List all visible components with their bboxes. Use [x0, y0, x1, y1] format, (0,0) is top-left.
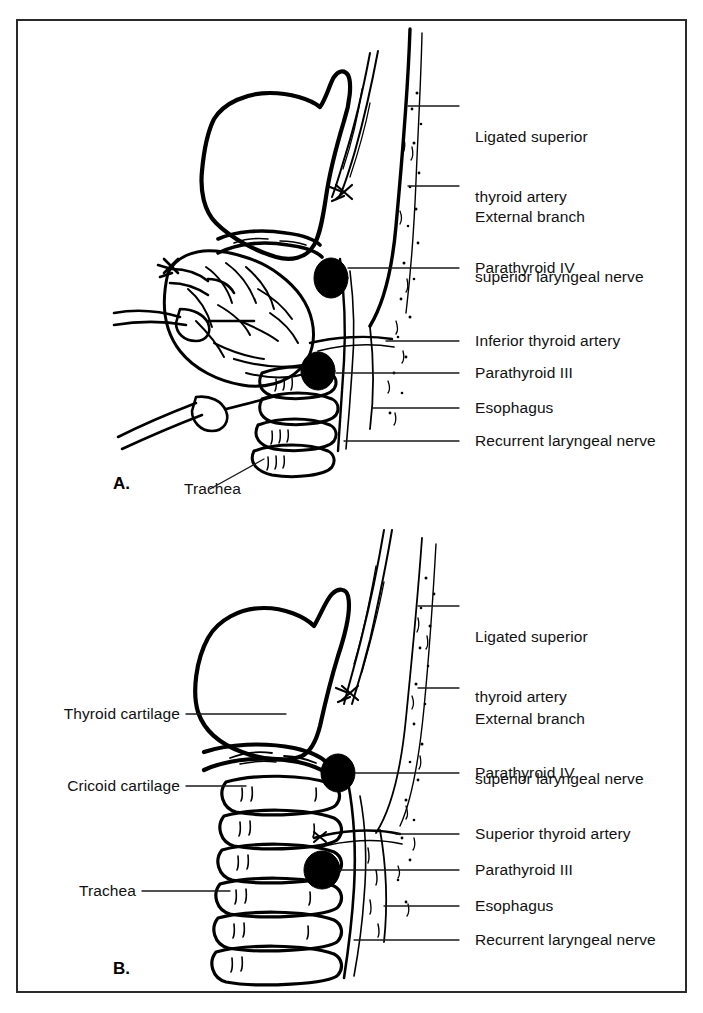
- parathyroid-iv-marker: [321, 754, 355, 792]
- retractor-lower: [118, 397, 272, 449]
- parathyroid-iv-marker: [314, 258, 348, 298]
- recurrent-laryngeal-nerve-line: [344, 782, 355, 978]
- cricoid-detail-2: [284, 756, 316, 763]
- label-line: External branch: [475, 207, 644, 227]
- fascia-line: [406, 33, 422, 313]
- label-cricoid-cartilage: Cricoid cartilage: [45, 776, 180, 796]
- thyroid-cartilage-outline: [202, 71, 351, 258]
- fascia-line: [400, 544, 436, 826]
- trachea-texture-ticks: [267, 378, 292, 470]
- superior-thyroid-vessel-b: [352, 530, 392, 704]
- label-recurrent-laryngeal-nerve: Recurrent laryngeal nerve: [475, 431, 656, 451]
- ligature-knot-icon: [330, 185, 352, 201]
- recurrent-laryngeal-nerve-line: [338, 259, 345, 451]
- panel-letter-a: A.: [113, 474, 130, 494]
- label-parathyroid-iv: Parathyroid IV: [475, 763, 575, 783]
- label-parathyroid-iv: Parathyroid IV: [475, 258, 575, 278]
- superior-laryngeal-nerve-branch: [350, 103, 370, 177]
- parathyroid-iii-marker: [301, 352, 335, 390]
- figure-frame: Ligated superior thyroid artery External…: [16, 19, 687, 993]
- trachea-rings: [212, 776, 342, 985]
- superior-thyroid-vessel-a: [344, 530, 384, 704]
- label-esophagus: Esophagus: [475, 896, 553, 916]
- label-parathyroid-iii: Parathyroid III: [475, 860, 573, 880]
- trachea-texture-ticks: [231, 787, 316, 972]
- panel-b: Ligated superior thyroid artery External…: [18, 508, 689, 993]
- lateral-neck-border-line: [370, 29, 410, 326]
- cricoid-detail-1: [230, 752, 272, 758]
- superior-laryngeal-nerve-line: [354, 566, 376, 664]
- fascia-texture-ticks: [398, 618, 428, 916]
- inferior-thyroid-artery-thin: [318, 345, 394, 351]
- ligature-knot-icon: [336, 686, 358, 702]
- clamp-upper: [158, 259, 234, 295]
- cricoid-upper-border: [204, 745, 330, 766]
- esophagus-texture: [368, 848, 379, 937]
- cricoid-detail-3: [240, 761, 276, 764]
- label-thyroid-cartilage: Thyroid cartilage: [49, 704, 180, 724]
- recurrent-laryngeal-nerve-thin: [354, 796, 366, 976]
- superior-laryngeal-nerve-line: [343, 89, 362, 169]
- label-line: External branch: [475, 709, 644, 729]
- trachea-rings: [252, 367, 338, 477]
- retractor-upper: [114, 309, 254, 341]
- label-line: Ligated superior: [475, 127, 588, 147]
- superior-laryngeal-nerve-branch: [362, 582, 384, 672]
- artery-ligature-icon: [314, 832, 326, 842]
- cricoid-detail-2: [280, 241, 306, 245]
- superior-thyroid-vessel-b: [340, 51, 378, 195]
- recurrent-laryngeal-nerve-thin: [346, 271, 354, 449]
- stipple-dots: [389, 92, 423, 415]
- parathyroid-iii-marker: [304, 851, 340, 889]
- label-line: Ligated superior: [475, 627, 588, 647]
- superior-thyroid-artery-thin: [318, 841, 402, 848]
- cricoid-lower-border: [218, 243, 322, 257]
- label-external-branch-superior-laryngeal-nerve: External branch superior laryngeal nerve: [475, 167, 644, 327]
- stipple-dots: [397, 577, 436, 904]
- thyroid-cartilage-outline: [195, 590, 349, 760]
- panel-letter-b: B.: [113, 959, 130, 979]
- fascia-texture-ticks: [388, 139, 413, 425]
- thyroid-gland-outline: [164, 251, 313, 387]
- label-recurrent-laryngeal-nerve: Recurrent laryngeal nerve: [475, 930, 656, 950]
- label-external-branch-superior-laryngeal-nerve: External branch superior laryngeal nerve: [475, 669, 644, 829]
- label-trachea: Trachea: [72, 881, 136, 901]
- thyroid-gland-lobulations: [188, 263, 298, 359]
- esophagus-line: [370, 327, 373, 429]
- lateral-neck-border-line: [376, 538, 422, 833]
- leader-lines-left: [142, 714, 286, 891]
- leader-lines-right: [336, 106, 459, 441]
- cricoid-detail-1: [234, 239, 268, 244]
- cricoid-upper-border: [218, 231, 320, 245]
- label-trachea: Trachea: [184, 479, 241, 499]
- label-superior-thyroid-artery: Superior thyroid artery: [475, 824, 631, 844]
- thyroid-isthmus-edge: [234, 359, 302, 367]
- leader-lines-right: [340, 606, 459, 940]
- cricoid-lower-border: [204, 759, 334, 780]
- label-parathyroid-iii: Parathyroid III: [475, 363, 573, 383]
- thyroid-inferior-edge: [246, 371, 312, 377]
- inferior-thyroid-artery-line: [310, 337, 392, 343]
- label-inferior-thyroid-artery: Inferior thyroid artery: [475, 331, 620, 351]
- superior-thyroid-vessel-a: [332, 53, 370, 197]
- label-esophagus: Esophagus: [475, 398, 553, 418]
- figure-root: Ligated superior thyroid artery External…: [0, 0, 703, 1013]
- panel-a: Ligated superior thyroid artery External…: [18, 21, 689, 508]
- esophagus-line: [380, 830, 386, 942]
- superior-thyroid-artery-line: [314, 831, 400, 838]
